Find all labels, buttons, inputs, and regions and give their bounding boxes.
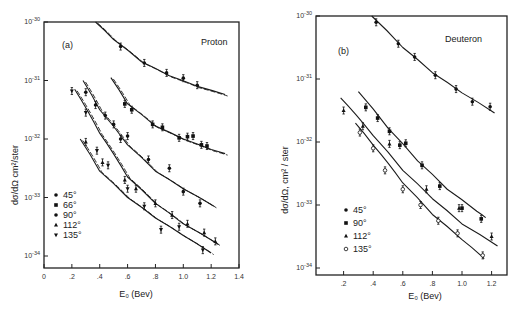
series-135deg [70, 88, 214, 255]
legend: 45°90°112°135° [344, 205, 372, 254]
panel-deuteron: .2.4.6.81.01.210-3010-3110-3210-3310-344… [280, 10, 507, 301]
y-tick-label: 10-32 [24, 133, 40, 142]
panel-title: Proton [201, 37, 228, 47]
x-tick-label: .8 [429, 280, 435, 287]
x-axis-label: E₀ (Bev) [119, 289, 153, 299]
legend-label: 112° [63, 220, 81, 230]
y-tick-label: 10-31 [296, 73, 312, 82]
legend-label: 90° [63, 210, 77, 220]
y-tick-label: 10-33 [296, 199, 312, 208]
x-tick-label: 1.0 [457, 280, 467, 287]
x-tick-label: .2 [341, 280, 347, 287]
legend-label: 45° [353, 205, 367, 215]
x-tick-label: .6 [125, 273, 131, 280]
x-tick-label: 0 [42, 273, 46, 280]
y-tick-label: 10-31 [24, 75, 40, 84]
y-tick-label: 10-32 [296, 136, 312, 145]
legend: 45°66°90°112°135° [54, 190, 82, 240]
panel-title: Deuteron [445, 34, 482, 44]
y-tick-label: 10-30 [296, 10, 312, 19]
y-tick-label: 10-33 [24, 192, 40, 201]
legend-label: 90° [353, 218, 367, 228]
series-45deg [372, 16, 495, 113]
legend-label: 135° [353, 244, 372, 254]
x-tick-label: .4 [370, 280, 376, 287]
panel-label: (b) [338, 46, 349, 56]
series-66deg [111, 78, 228, 156]
y-axis-label: dσ/dΩ cm²/ster [10, 145, 20, 205]
x-axis-label: E₀ (Bev) [408, 291, 442, 301]
legend-label: 135° [63, 230, 82, 240]
panel-proton: 0.2.4.6.81.01.21.410-3010-3110-3210-3310… [10, 16, 244, 299]
series-135deg [355, 123, 484, 259]
series-112deg [75, 89, 221, 246]
x-tick-label: 1.2 [206, 273, 216, 280]
panel-label: (a) [62, 40, 73, 50]
x-tick-label: .2 [69, 273, 75, 280]
x-tick-label: .6 [400, 280, 406, 287]
x-tick-label: .4 [97, 273, 103, 280]
y-tick-label: 10-30 [24, 16, 40, 25]
x-tick-label: .8 [153, 273, 159, 280]
y-tick-label: 10-34 [24, 250, 40, 259]
legend-label: 112° [353, 231, 371, 241]
chart-canvas: 0.2.4.6.81.01.21.410-3010-3110-3210-3310… [0, 0, 516, 311]
legend-label: 66° [63, 200, 77, 210]
figure: 0.2.4.6.81.01.21.410-3010-3110-3210-3310… [0, 0, 516, 311]
y-tick-label: 10-34 [296, 262, 312, 271]
x-tick-label: 1.4 [234, 273, 244, 280]
legend-label: 45° [63, 190, 77, 200]
x-tick-label: 1.0 [178, 273, 188, 280]
x-tick-label: 1.2 [487, 280, 497, 287]
y-axis-label: dσ/dΩ, cm² / ster [280, 146, 290, 213]
